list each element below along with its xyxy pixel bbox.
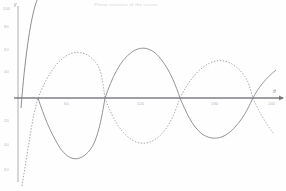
y-tick-label: 40 — [4, 69, 9, 74]
dotted-curve-peak-2 — [180, 61, 253, 98]
solid-curve-steep-branch — [21, 0, 38, 108]
y-tick-label: 40 — [4, 142, 9, 147]
x-tick-label: 180 — [211, 101, 218, 106]
solid-curve-trough-1 — [38, 98, 105, 159]
x-tick-label: 120 — [137, 101, 144, 106]
dotted-curve-peak-1 — [38, 52, 105, 98]
y-tick-label: 60 — [4, 167, 9, 172]
plot-area — [0, 0, 286, 191]
solid-curve-peak-1 — [105, 48, 180, 98]
y-tick-label: 60 — [4, 47, 9, 52]
x-tick-label: 60 — [64, 101, 69, 106]
y-tick-label: 100 — [3, 6, 10, 11]
y-tick-label: 20 — [4, 118, 9, 123]
y-axis-label: y — [14, 1, 17, 7]
x-tick-label: 240 — [268, 101, 275, 106]
y-tick-label: 80 — [4, 24, 9, 29]
x-axis-label: θ — [273, 88, 276, 94]
x-axis-arrow — [279, 96, 284, 101]
dotted-curve-lower-branch — [22, 98, 38, 186]
figure-canvas: Phase relations of the curves 100 80 60 … — [0, 0, 286, 191]
